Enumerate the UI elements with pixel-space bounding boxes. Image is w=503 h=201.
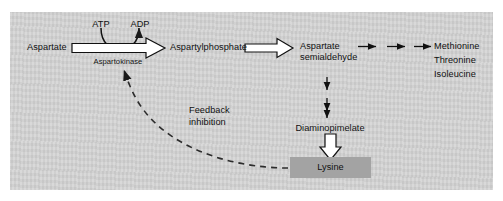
cofactor-label-atp: ATP <box>92 19 109 31</box>
lysine-highlight-box: Lysine <box>290 157 371 178</box>
annotation-feedback-inhibition-line1: Feedback <box>189 105 230 117</box>
node-label-methionine: Methionine <box>434 41 479 53</box>
node-label-lysine: Lysine <box>290 157 371 178</box>
cofactor-label-adp: ADP <box>130 19 149 31</box>
enzyme-label-aspartokinase: Aspartokinase <box>94 57 143 66</box>
node-label-diaminopimelate: Diaminopimelate <box>295 123 364 135</box>
node-label-aspartate: Aspartate <box>27 42 67 54</box>
node-label-isoleucine: Isoleucine <box>434 69 476 81</box>
annotation-feedback-inhibition-line2: inhibition <box>189 117 226 129</box>
diagram-panel <box>10 12 493 190</box>
node-label-aspartate-semialdehyde-line1: Aspartate <box>300 41 340 53</box>
node-label-threonine: Threonine <box>434 55 476 67</box>
node-label-aspartylphosphate: Aspartylphosphate <box>170 42 247 54</box>
pathway-figure: Aspartate ATP ADP Aspartokinase Aspartyl… <box>0 0 503 201</box>
node-label-aspartate-semialdehyde-line2: semialdehyde <box>300 52 357 64</box>
